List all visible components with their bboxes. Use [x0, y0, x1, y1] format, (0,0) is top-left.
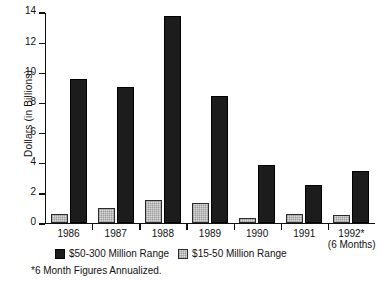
- x-axis-label-text: 1990: [246, 228, 268, 239]
- x-axis-label-text: 1991: [293, 228, 315, 239]
- legend-label: $15-50 Million Range: [192, 248, 287, 259]
- x-axis-label-text: 1989: [199, 228, 221, 239]
- bar-dark-range: [70, 79, 87, 222]
- y-tick: 6: [39, 133, 45, 134]
- bar-light-range: [98, 208, 115, 222]
- y-tick-label: 4: [30, 156, 36, 167]
- y-tick: 10: [39, 73, 45, 74]
- y-tick: 8: [39, 103, 45, 104]
- bar-group: [192, 12, 228, 223]
- x-axis-label-text: 1988: [152, 228, 174, 239]
- chart-legend: $50-300 Million Range$15-50 Million Rang…: [55, 248, 287, 259]
- bar-light-range: [333, 215, 350, 223]
- x-axis-label: 1992*(6 Months): [328, 228, 375, 250]
- x-axis-label-text: 1986: [57, 228, 79, 239]
- y-tick-label: 8: [30, 96, 36, 107]
- legend-swatch-dark-icon: [55, 249, 65, 259]
- y-tick-label: 0: [30, 216, 36, 227]
- y-tick-label: 6: [30, 126, 36, 137]
- bar-light-range: [145, 200, 162, 223]
- x-axis-label: 1989: [186, 228, 233, 239]
- x-axis-label: 1988: [139, 228, 186, 239]
- y-tick: 4: [39, 163, 45, 164]
- bar-chart-figure: Dollars (in Billions) 02468101214 198619…: [0, 0, 382, 282]
- legend-entry: $15-50 Million Range: [178, 248, 287, 259]
- y-tick-label: 14: [25, 5, 36, 16]
- x-axis-label: 1986: [45, 228, 92, 239]
- x-axis-sublabel-text: (6 Months): [328, 239, 375, 250]
- bar-dark-range: [164, 16, 181, 222]
- bar-light-range: [192, 203, 209, 222]
- legend-swatch-light-icon: [178, 249, 188, 259]
- bar-group: [239, 12, 275, 223]
- bar-group: [51, 12, 87, 223]
- bar-dark-range: [305, 185, 322, 223]
- y-tick: 2: [39, 193, 45, 194]
- y-tick: 12: [39, 43, 45, 44]
- bar-light-range: [51, 214, 68, 223]
- x-axis-label-text: 1992*: [338, 228, 364, 239]
- y-tick-label: 12: [25, 36, 36, 47]
- y-tick-label: 2: [30, 186, 36, 197]
- y-axis-line: [45, 13, 46, 224]
- bar-dark-range: [211, 96, 228, 223]
- x-axis-label: 1990: [234, 228, 281, 239]
- y-tick: 0: [39, 223, 45, 224]
- legend-entry: $50-300 Million Range: [55, 248, 169, 259]
- x-axis-label: 1987: [92, 228, 139, 239]
- bar-group: [145, 12, 181, 223]
- bar-group: [286, 12, 322, 223]
- bar-dark-range: [352, 171, 369, 223]
- bar-group: [333, 12, 369, 223]
- y-tick: 14: [39, 12, 45, 13]
- plot-area: 02468101214: [45, 13, 375, 224]
- bar-light-range: [286, 214, 303, 223]
- bar-dark-range: [258, 165, 275, 223]
- y-tick-label: 10: [25, 66, 36, 77]
- bar-group: [98, 12, 134, 223]
- bar-dark-range: [117, 87, 134, 223]
- chart-footnote: *6 Month Figures Annualized.: [31, 265, 162, 276]
- x-axis-line: [45, 223, 375, 224]
- bar-light-range: [239, 218, 256, 223]
- x-axis-label-text: 1987: [105, 228, 127, 239]
- legend-label: $50-300 Million Range: [69, 248, 169, 259]
- x-axis-label: 1991: [281, 228, 328, 239]
